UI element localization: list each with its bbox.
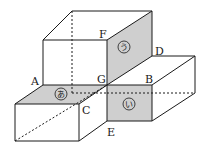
diagram-container: う い あ F D A G B C E xyxy=(0,0,209,151)
vertex-label-b: B xyxy=(145,73,153,86)
vertex-label-g: G xyxy=(97,73,106,86)
vertex-label-e: E xyxy=(107,126,115,139)
svg-text:い: い xyxy=(125,100,133,109)
vertex-label-f: F xyxy=(99,28,107,41)
svg-text:う: う xyxy=(120,43,128,52)
vertex-label-d: D xyxy=(155,45,164,58)
vertex-label-c: C xyxy=(82,104,90,117)
svg-text:あ: あ xyxy=(57,90,65,99)
block-figure: う い あ F D A G B C E xyxy=(0,0,209,151)
vertex-label-a: A xyxy=(30,75,40,88)
